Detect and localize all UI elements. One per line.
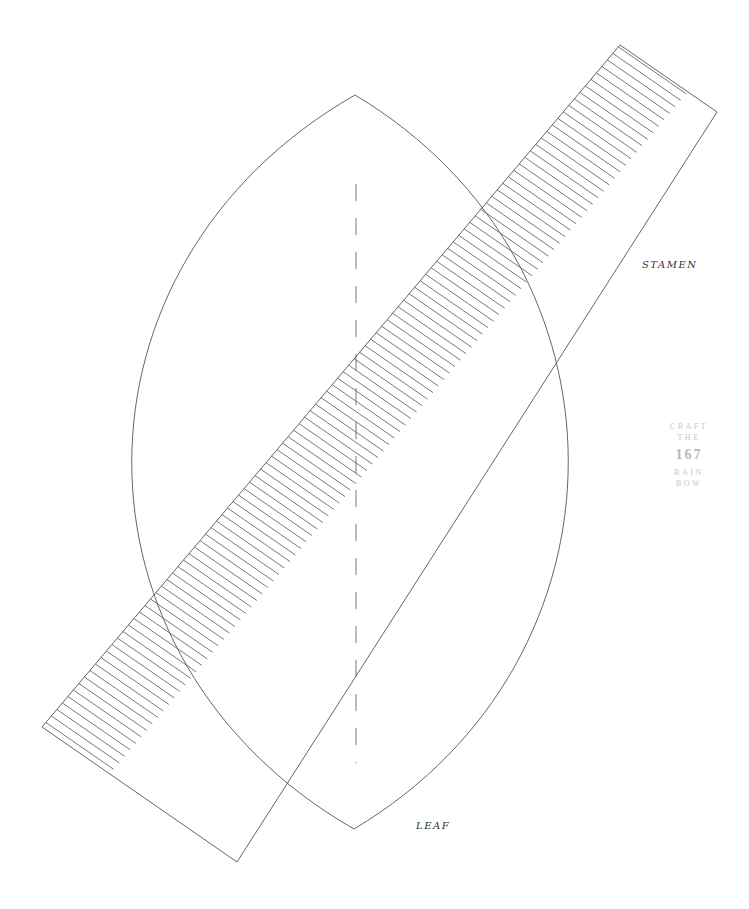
stamp-line-the: THE — [660, 434, 718, 442]
leaf-label: LEAF — [416, 820, 450, 831]
leaf-outline — [132, 95, 569, 829]
stamp-line-rain: RAIN — [660, 469, 718, 477]
stamen-label: STAMEN — [642, 259, 697, 270]
pattern-drawing — [0, 0, 749, 909]
stamp-number: 167 — [660, 448, 718, 462]
stamen-strip — [42, 45, 717, 862]
stamp-line-bow: BOW — [660, 480, 718, 488]
craft-the-rainbow-stamp: CRAFT THE 167 RAIN BOW — [658, 420, 718, 491]
stamp-line-craft: CRAFT — [660, 423, 718, 431]
stamen-strip-outline — [42, 45, 717, 862]
